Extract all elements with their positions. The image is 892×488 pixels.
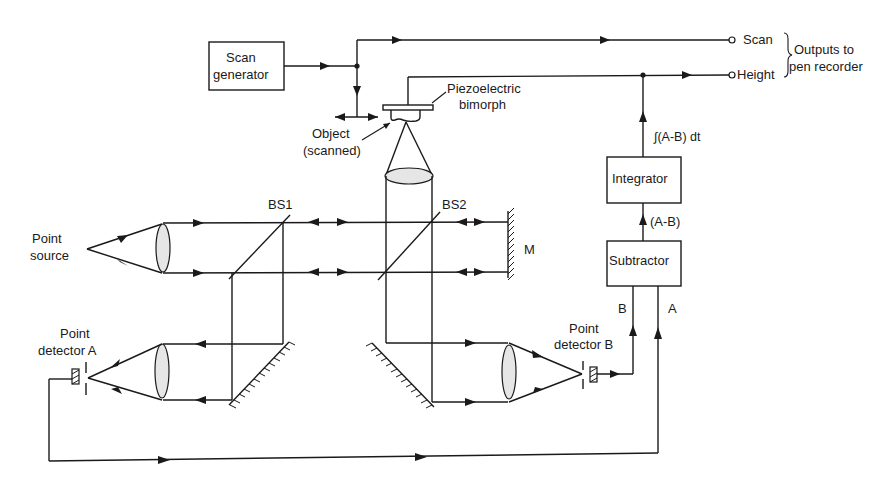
arrow-right-icon	[320, 62, 330, 70]
objective-lens	[385, 168, 433, 184]
bs2-label: BS2	[442, 197, 467, 212]
piezo-label-1: Piezoelectric	[447, 81, 521, 96]
difference-wire: (A-B)	[639, 203, 680, 241]
scan-generator-label-1: Scan	[226, 50, 256, 65]
object-label-2: (scanned)	[303, 143, 361, 158]
collimator-lens	[156, 224, 170, 272]
object-sample	[391, 110, 420, 121]
scan-output-terminal	[729, 37, 735, 43]
right-detection-path	[366, 339, 582, 408]
arrow-left-icon	[335, 113, 345, 121]
arrow-right-icon	[392, 36, 402, 44]
detector-a-lens	[155, 344, 169, 398]
arrow-right-icon	[600, 36, 610, 44]
point-detector-a: Point detector A	[38, 326, 97, 461]
scan-output-label: Scan	[743, 32, 773, 47]
scan-generator-block: Scan generator	[209, 42, 284, 90]
point-detector-b: Point detector B B	[554, 285, 637, 389]
detector-b-label-2: detector B	[554, 337, 613, 352]
optical-diagram: Scan generator Scan Height Outputs to pe…	[0, 0, 892, 488]
outputs-label-1: Outputs to	[794, 42, 854, 57]
detector-a-label-1: Point	[60, 326, 90, 341]
height-output-label: Height	[737, 67, 775, 82]
scan-signal-wire	[284, 36, 735, 121]
reference-mirror-m: M	[508, 208, 535, 280]
left-detection-path	[88, 222, 295, 408]
object-label-1: Object	[312, 126, 350, 141]
signal-b-label: B	[618, 301, 627, 316]
arrow-down-icon	[353, 86, 361, 96]
difference-label: (A-B)	[650, 214, 680, 229]
scan-generator-label-2: generator	[213, 67, 269, 82]
point-source-label-2: source	[30, 248, 69, 263]
height-output-terminal	[729, 72, 735, 78]
detector-b-lens	[502, 345, 516, 399]
integrator-label: Integrator	[612, 171, 668, 186]
main-beams	[163, 218, 508, 277]
mirror-label: M	[524, 242, 535, 257]
point-source-label-1: Point	[32, 231, 62, 246]
fold-mirror-right	[372, 343, 434, 407]
signal-a-label: A	[668, 301, 677, 316]
integral-label: ∫(A-B) dt	[653, 130, 701, 144]
arrow-right-icon	[368, 113, 378, 121]
piezo-label-2: bimorph	[459, 97, 506, 112]
subtractor-block: Subtractor	[607, 241, 681, 286]
arrow-up-icon	[639, 111, 647, 122]
integrator-block: Integrator	[607, 157, 681, 203]
detector-b-label-1: Point	[569, 321, 599, 336]
objective-lens-assembly	[385, 122, 433, 402]
arrow-right-icon	[682, 71, 692, 79]
bs1-label: BS1	[268, 197, 293, 212]
piezo-leader-line	[432, 92, 446, 103]
subtractor-label: Subtractor	[609, 253, 670, 268]
outputs-group: Scan Height Outputs to pen recorder	[729, 32, 863, 82]
signal-a-wire: A	[49, 285, 677, 464]
point-source-assembly: Point source	[30, 224, 170, 273]
outputs-label-2: pen recorder	[789, 59, 863, 74]
beam-splitter-bs2: BS2	[378, 197, 467, 280]
piezo-stage: Piezoelectric bimorph Object (scanned)	[303, 81, 521, 158]
detector-a-label-2: detector A	[38, 343, 97, 358]
